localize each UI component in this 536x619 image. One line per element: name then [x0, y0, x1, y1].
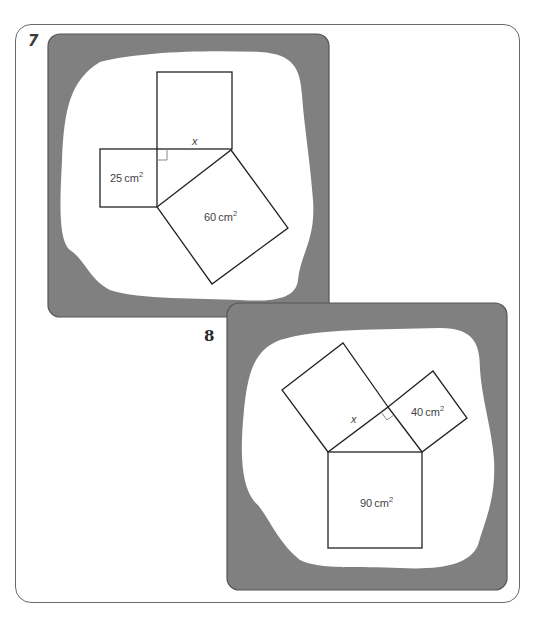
problem-8-diagram: x 40cm2 90cm2: [227, 303, 507, 590]
label-x: x: [191, 135, 198, 147]
diagram-canvas: x 25cm2 60cm2 x 40cm2 90cm2: [0, 0, 536, 619]
label-40cm2: 40cm2: [411, 404, 444, 418]
label-90cm2: 90cm2: [360, 495, 393, 509]
label-60cm2: 60cm2: [204, 209, 237, 223]
problem-number-8: 8: [204, 327, 214, 345]
problem-number-7: 7: [28, 32, 38, 50]
label-x: x: [350, 413, 357, 425]
label-25cm2: 25cm2: [110, 170, 143, 184]
problem-7-diagram: x 25cm2 60cm2: [48, 34, 329, 317]
